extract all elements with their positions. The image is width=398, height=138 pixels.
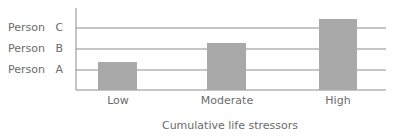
x-tick-low: Low <box>68 94 168 107</box>
bar-low <box>98 62 137 90</box>
y-tick-person-b: Person B <box>8 43 63 55</box>
bar-chart: Person C Person B Person A Low Moderate … <box>0 0 398 138</box>
x-tick-high: High <box>288 94 388 107</box>
x-tick-moderate: Moderate <box>177 94 277 107</box>
x-axis-title: Cumulative life stressors <box>130 119 330 132</box>
bar-moderate <box>207 43 246 90</box>
y-tick-person-a: Person A <box>8 64 63 76</box>
y-tick-person-c: Person C <box>8 22 63 34</box>
bar-high <box>319 19 357 90</box>
